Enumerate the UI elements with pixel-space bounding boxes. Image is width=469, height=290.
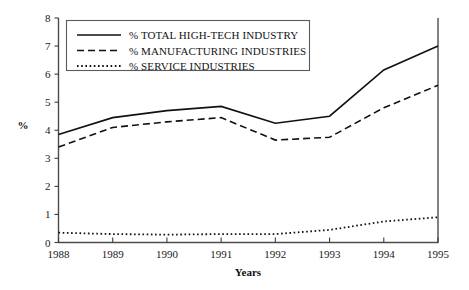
y-tick-label: 3: [45, 152, 51, 164]
legend-label-2: % SERVICE INDUSTRIES: [129, 60, 255, 72]
y-axis-title: %: [18, 119, 29, 131]
legend-label-1: % MANUFACTURING INDUSTRIES: [129, 45, 306, 57]
line-chart: 012345678 198819891990199119921993199419…: [0, 0, 469, 290]
y-tick-label: 1: [45, 208, 51, 220]
x-tick-label: 1992: [264, 248, 286, 260]
y-tick-label: 6: [45, 68, 51, 80]
x-tick-label: 1988: [48, 248, 71, 260]
x-tick-label: 1995: [427, 248, 450, 260]
x-tick-label: 1994: [373, 248, 396, 260]
legend-label-0: % TOTAL HIGH-TECH INDUSTRY: [129, 29, 298, 41]
x-axis-title: Years: [235, 266, 262, 278]
x-tick-label: 1990: [156, 248, 179, 260]
chart-canvas: 012345678 198819891990199119921993199419…: [0, 0, 469, 290]
y-tick-label: 4: [45, 124, 51, 136]
y-tick-label: 5: [45, 96, 51, 108]
legend: % TOTAL HIGH-TECH INDUSTRY% MANUFACTURIN…: [67, 21, 310, 73]
y-tick-label: 8: [45, 12, 51, 24]
x-tick-label: 1993: [319, 248, 342, 260]
x-tick-label: 1991: [210, 248, 232, 260]
x-tick-label: 1989: [102, 248, 125, 260]
y-tick-label: 7: [45, 40, 51, 52]
y-tick-label: 2: [45, 180, 51, 192]
